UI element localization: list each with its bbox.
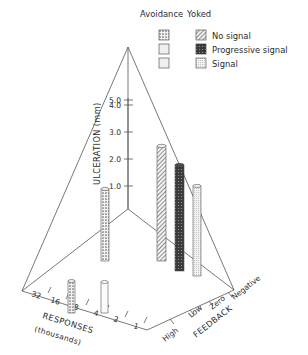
bars-group — [68, 144, 201, 313]
z-axis — [124, 98, 133, 209]
legend-label-signal: Signal — [212, 59, 238, 69]
bar-avoidance-nosignal-back[interactable] — [101, 187, 109, 261]
z-tick-5: 5.0 — [109, 96, 121, 105]
legend-swatch-avoidance-signal — [159, 58, 169, 68]
z-tick-3: 3.0 — [109, 128, 121, 137]
bar-yoked-nosignal[interactable] — [157, 144, 166, 261]
z-tick-2: 2.0 — [109, 155, 121, 164]
legend-row-signal[interactable]: Signal — [159, 58, 238, 69]
legend-label-progressive-signal: Progressive signal — [212, 45, 288, 55]
legend-swatch-yoked-no-signal — [196, 30, 206, 40]
chart-svg: 1.0 2.0 3.0 4.0 5.0 ULCERATION (mm) 32 1… — [0, 0, 308, 355]
legend-row-no-signal[interactable]: No signal — [159, 30, 251, 41]
legend: Avoidance Yoked No signal Progressive si… — [140, 9, 288, 69]
y-axis-tick-labels: High Low Zero Negative — [161, 273, 263, 343]
legend-swatch-yoked-progressive-signal — [196, 44, 206, 54]
y-tick-high: High — [161, 326, 180, 344]
x-tick-1: 1 — [132, 321, 139, 331]
bar-avoidance-open-front[interactable] — [101, 281, 108, 314]
y-tick-low: Low — [187, 303, 204, 319]
figure-3d-bar-chart: 1.0 2.0 3.0 4.0 5.0 ULCERATION (mm) 32 1… — [0, 0, 308, 355]
z-tick-1: 1.0 — [109, 182, 121, 191]
bar-yoked-signal[interactable] — [193, 184, 201, 276]
x-tick-2: 2 — [112, 314, 119, 324]
legend-label-no-signal: No signal — [212, 31, 251, 41]
bar-avoidance-nosignal-front[interactable] — [68, 280, 75, 314]
z-axis-title: ULCERATION (mm) — [92, 102, 102, 185]
legend-row-progressive-signal[interactable]: Progressive signal — [159, 44, 288, 55]
x-tick-16: 16 — [49, 295, 61, 306]
bar-yoked-progressive[interactable] — [175, 163, 184, 271]
z-axis-tick-labels: 1.0 2.0 3.0 4.0 5.0 — [109, 96, 121, 191]
x-tick-4: 4 — [92, 308, 99, 318]
legend-swatch-yoked-signal — [196, 58, 206, 68]
legend-header-avoidance: Avoidance — [140, 9, 183, 19]
y-tick-negative: Negative — [230, 273, 263, 301]
legend-header-yoked: Yoked — [186, 9, 211, 19]
x-tick-32: 32 — [30, 289, 42, 300]
legend-swatch-avoidance-progressive-signal — [159, 44, 169, 54]
legend-swatch-avoidance-no-signal — [159, 30, 169, 40]
